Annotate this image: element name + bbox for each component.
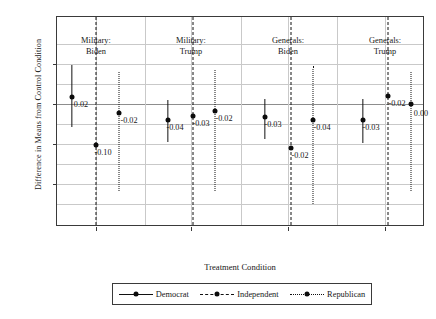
x-axis-title: Treatment Condition (56, 262, 424, 272)
x-tickmark-2 (191, 227, 192, 231)
gridline-h-0.10 (57, 64, 423, 65)
point-independent-2 (191, 114, 196, 119)
point-independent-1 (94, 143, 99, 148)
point-republican-1 (117, 111, 122, 116)
y-tickmark--0.2 (53, 184, 57, 185)
legend-item-republican: Republican (290, 290, 365, 299)
legend-symbol-democrat (119, 291, 153, 298)
value-label-democrat-1: 0.02 (74, 100, 88, 109)
x-ticklabel-4-line1: Generals: (325, 35, 436, 46)
value-label-democrat-3: -0.03 (264, 120, 281, 129)
point-republican-3 (311, 118, 316, 123)
x-tickmark-1 (96, 227, 97, 231)
gridline-h--0.25 (57, 204, 423, 205)
y-tickmark--0.1 (53, 144, 57, 145)
point-republican-2 (213, 109, 218, 114)
zero-reference-line (57, 104, 423, 105)
point-democrat-2 (166, 118, 171, 123)
value-label-independent-2: -0.03 (192, 119, 209, 128)
legend-item-independent: Independent (200, 290, 278, 299)
legend-label-independent: Independent (237, 290, 278, 299)
legend-label-democrat: Democrat (156, 290, 189, 299)
point-republican-4 (409, 102, 414, 107)
y-tickmark-0.0 (53, 104, 57, 105)
gridline-h--0.10 (57, 144, 423, 145)
point-independent-4 (386, 94, 391, 99)
point-democrat-1 (70, 95, 75, 100)
legend-symbol-republican (290, 291, 324, 298)
x-tickmark-4 (385, 227, 386, 231)
value-label-republican-3: -0.04 (313, 123, 330, 132)
value-label-independent-1: -0.10 (94, 148, 111, 157)
gridline-h--0.15 (57, 164, 423, 165)
value-label-democrat-4: -0.03 (362, 123, 379, 132)
point-democrat-3 (263, 115, 268, 120)
value-label-republican-2: -0.02 (215, 114, 232, 123)
errorbar-republican-4 (411, 72, 412, 191)
legend-item-democrat: Democrat (119, 290, 189, 299)
value-label-democrat-2: -0.04 (166, 123, 183, 132)
legend-symbol-independent (200, 291, 234, 298)
value-label-independent-4: -0.02 (388, 99, 405, 108)
legend-label-republican: Republican (327, 290, 365, 299)
value-label-republican-1: -0.02 (120, 116, 137, 125)
errorbar-republican-3 (313, 66, 314, 204)
figure-root: Difference in Means from Control Conditi… (0, 0, 436, 319)
y-tickmark-0.1 (53, 64, 57, 65)
value-label-independent-3: -0.02 (291, 151, 308, 160)
value-label-republican-4: 0.00 (414, 109, 428, 118)
gridline-h-0.05 (57, 84, 423, 85)
x-ticklabel-4: Generals: Trump (325, 35, 436, 57)
gridline-h--0.20 (57, 184, 423, 185)
x-ticklabel-4-line2: Trump (325, 46, 436, 57)
point-independent-3 (289, 146, 294, 151)
x-tickmark-3 (288, 227, 289, 231)
plot-panel: 0.02 -0.10 -0.02 -0.04 -0.03 -0.02 -0.03… (56, 16, 424, 226)
errorbar-republican-2 (215, 70, 216, 191)
legend: Democrat Independent Republican (112, 283, 372, 305)
point-democrat-4 (361, 118, 366, 123)
errorbar-republican-1 (119, 72, 120, 191)
